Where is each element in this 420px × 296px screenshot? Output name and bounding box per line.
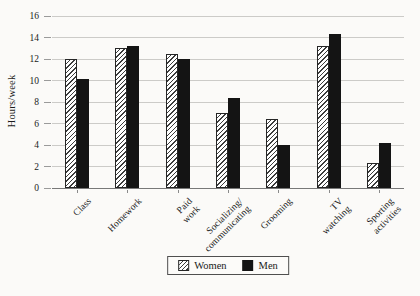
bar-women xyxy=(166,54,178,188)
bar-men xyxy=(228,98,240,188)
legend-label-men: Men xyxy=(259,260,278,271)
bar-groups xyxy=(52,16,404,188)
y-tick-mark-6 xyxy=(44,123,51,124)
x-tick-mark xyxy=(127,190,128,193)
y-tick-mark-14 xyxy=(44,37,51,38)
y-tick-label-12: 12 xyxy=(30,54,40,64)
bar-group xyxy=(203,16,253,188)
plot-area xyxy=(52,16,404,189)
bar-group xyxy=(253,16,303,188)
y-tick-label-8: 8 xyxy=(34,97,39,107)
x-tick-mark xyxy=(278,190,279,193)
y-tick-label-16: 16 xyxy=(30,11,40,21)
bar-group xyxy=(303,16,353,188)
bar-women xyxy=(216,113,228,188)
legend-item-women: Women xyxy=(178,260,226,271)
bar-women xyxy=(115,48,127,188)
bar-women xyxy=(367,163,379,188)
x-axis-labels: ClassHomeworkPaid workSocializing/ commu… xyxy=(52,191,404,255)
y-tick-mark-10 xyxy=(44,80,51,81)
x-category-label: Socializing/ communicating xyxy=(194,196,252,254)
x-category-label: Grooming xyxy=(259,196,295,232)
x-category-label: Class xyxy=(71,196,93,218)
bar-group xyxy=(153,16,203,188)
bar-men xyxy=(127,46,139,188)
legend: Women Men xyxy=(167,256,289,275)
men-solid-swatch-icon xyxy=(243,260,254,271)
x-tick-mark xyxy=(379,190,380,193)
y-tick-mark-2 xyxy=(44,166,51,167)
y-tick-mark-16 xyxy=(44,16,51,17)
bar-group xyxy=(102,16,152,188)
x-category-label: Homework xyxy=(106,196,144,234)
x-tick-mark xyxy=(329,190,330,193)
y-tick-mark-8 xyxy=(44,102,51,103)
y-tick-mark-12 xyxy=(44,59,51,60)
bar-chart-figure: Hours/week 0246810121416 ClassHomeworkPa… xyxy=(0,0,420,296)
x-tick-mark xyxy=(228,190,229,193)
x-tick-mark xyxy=(77,190,78,193)
bar-men xyxy=(379,143,391,188)
x-category-label: Sporting activities xyxy=(363,196,403,236)
bar-men xyxy=(329,34,341,188)
x-category-label: Paid work xyxy=(173,196,202,225)
legend-label-women: Women xyxy=(194,260,226,271)
bar-men xyxy=(178,59,190,188)
y-tick-label-2: 2 xyxy=(34,162,39,172)
y-tick-label-0: 0 xyxy=(34,183,39,193)
bar-men xyxy=(77,79,89,188)
y-axis: 0246810121416 xyxy=(0,16,52,188)
x-category-label: TV watching xyxy=(312,196,352,236)
y-tick-label-6: 6 xyxy=(34,119,39,129)
bar-women xyxy=(65,59,77,188)
bar-group xyxy=(354,16,404,188)
women-hatched-swatch-icon xyxy=(178,260,189,271)
y-tick-mark-4 xyxy=(44,145,51,146)
bar-women xyxy=(266,119,278,188)
legend-item-men: Men xyxy=(243,260,278,271)
y-tick-mark-0 xyxy=(44,188,51,189)
y-tick-label-10: 10 xyxy=(30,76,40,86)
bar-men xyxy=(278,145,290,188)
y-tick-label-14: 14 xyxy=(30,33,40,43)
x-tick-mark xyxy=(178,190,179,193)
bar-women xyxy=(317,46,329,188)
y-tick-label-4: 4 xyxy=(34,140,39,150)
bar-group xyxy=(52,16,102,188)
